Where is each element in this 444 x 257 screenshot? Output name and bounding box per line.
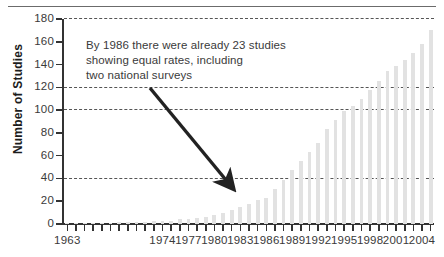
bar [178, 219, 182, 224]
bar [299, 161, 303, 224]
chart-annotation: By 1986 there were already 23 studies sh… [86, 38, 316, 83]
bar [273, 189, 277, 224]
bar [117, 222, 121, 224]
bar [386, 71, 390, 224]
x-axis-tick [266, 225, 268, 231]
x-axis-tick [179, 225, 181, 231]
bar [377, 81, 381, 225]
x-axis-tick [248, 225, 250, 231]
bar [109, 223, 113, 224]
x-axis-tick [404, 225, 406, 231]
bar [212, 215, 216, 224]
x-axis-tick [127, 225, 129, 231]
x-axis-tick [326, 225, 328, 231]
bar [290, 170, 294, 224]
bar [204, 217, 208, 224]
x-axis-tick [84, 225, 86, 231]
bar [65, 223, 69, 224]
x-axis-tick [309, 225, 311, 231]
x-axis-tick [188, 225, 190, 231]
x-axis-tick-label: 2004 [405, 234, 439, 246]
bar [308, 152, 312, 224]
bar [152, 221, 156, 224]
bar [316, 143, 320, 224]
x-axis-tick [153, 225, 155, 231]
x-axis-tick [369, 225, 371, 231]
x-axis-tick [343, 225, 345, 231]
bar [394, 66, 398, 224]
bar [161, 221, 165, 224]
y-axis-tick-label: 100 [8, 104, 54, 115]
bar [221, 213, 225, 224]
y-axis-tick-label: 160 [8, 36, 54, 47]
bar [83, 223, 87, 224]
x-axis-tick [317, 225, 319, 231]
x-axis-tick [291, 225, 293, 231]
bar [360, 99, 364, 224]
bar [247, 204, 251, 225]
x-axis-tick [136, 225, 138, 231]
top-divider [8, 6, 436, 7]
x-axis-tick [214, 225, 216, 231]
bar [368, 90, 372, 224]
y-axis-tick-label: 180 [8, 13, 54, 24]
bar [195, 218, 199, 224]
x-axis-tick [283, 225, 285, 231]
x-axis-tick [170, 225, 172, 231]
x-axis-tick [335, 225, 337, 231]
bar [403, 60, 407, 224]
bar [74, 223, 78, 224]
bar [411, 53, 415, 224]
bar [420, 44, 424, 224]
x-axis-tick [75, 225, 77, 231]
x-axis-tick [240, 225, 242, 231]
y-axis-tick-label: 80 [8, 127, 54, 138]
bar [100, 223, 104, 224]
x-axis-tick [222, 225, 224, 231]
bar [135, 222, 139, 224]
bar [282, 180, 286, 224]
x-axis-tick [144, 225, 146, 231]
annotation-line-1: By 1986 there were already 23 studies [86, 38, 316, 53]
annotation-line-3: two national surveys [86, 68, 316, 83]
x-axis-tick [92, 225, 94, 231]
x-axis-tick [196, 225, 198, 231]
bar [126, 222, 130, 224]
x-axis-tick-label: 1963 [50, 234, 84, 246]
bar [325, 129, 329, 224]
x-axis-tick [162, 225, 164, 231]
x-axis-tick [378, 225, 380, 231]
x-axis-tick [257, 225, 259, 231]
x-axis-tick [352, 225, 354, 231]
bar [169, 221, 173, 224]
bar [342, 111, 346, 224]
x-axis-tick [300, 225, 302, 231]
x-axis-tick [101, 225, 103, 231]
bar [264, 198, 268, 224]
y-axis-tick-label: 40 [8, 172, 54, 183]
y-axis-tick-label: 20 [8, 195, 54, 206]
bar [230, 210, 234, 224]
bar [351, 106, 355, 224]
x-axis-tick [387, 225, 389, 231]
annotation-line-2: showing equal rates, including [86, 53, 316, 68]
x-axis-tick [67, 225, 69, 231]
bar [334, 120, 338, 224]
chart-figure: Number of Studies 0204060801001201401601… [0, 0, 444, 257]
x-axis-tick [231, 225, 233, 231]
y-axis-title: Number of Studies [11, 29, 25, 169]
bar [429, 30, 433, 224]
y-axis-tick-label: 140 [8, 59, 54, 70]
bar [91, 223, 95, 224]
x-axis-tick [274, 225, 276, 231]
y-axis-tick-label: 120 [8, 81, 54, 92]
y-axis-tick-label: 0 [8, 218, 54, 229]
x-axis-tick [205, 225, 207, 231]
x-axis-tick [361, 225, 363, 231]
bar [256, 200, 260, 224]
x-axis-tick [118, 225, 120, 231]
x-axis-tick [413, 225, 415, 231]
bar [143, 222, 147, 224]
y-axis-tick-label: 60 [8, 150, 54, 161]
x-axis-tick [430, 225, 432, 231]
